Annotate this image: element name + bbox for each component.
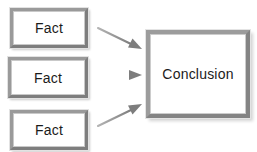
fact-box-3[interactable]: Fact [10,110,88,150]
conclusion-box-label: Conclusion [162,67,233,81]
fact-box-2[interactable]: Fact [8,57,88,98]
arrow-fact-3-to-conclusion-icon [98,104,142,126]
fact-box-1-label: Fact [35,21,63,35]
arrow-fact-2-to-conclusion-icon [98,70,142,80]
fact-box-1[interactable]: Fact [10,8,88,48]
fact-box-2-label: Fact [34,71,62,85]
fact-box-3-label: Fact [35,123,63,137]
diagram-canvas: Fact Fact Fact Conclusion [0,0,257,152]
conclusion-box[interactable]: Conclusion [146,30,250,118]
arrow-fact-1-to-conclusion-icon [98,28,142,49]
